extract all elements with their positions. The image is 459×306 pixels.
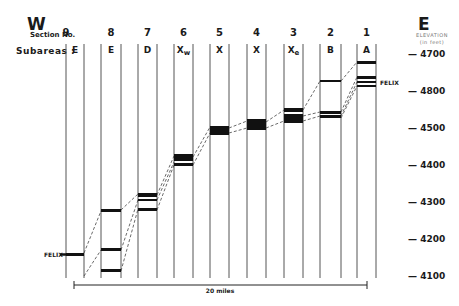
coal-bed-bar [357, 81, 376, 83]
coal-bed-bar [320, 80, 341, 82]
coal-bed-bar [138, 193, 157, 197]
coal-bed-bar [284, 114, 303, 123]
correlation-line [121, 209, 138, 271]
correlation-line [157, 156, 174, 195]
correlation-line [121, 194, 138, 210]
correlation-line [229, 121, 247, 128]
correlation-line [341, 86, 357, 118]
coal-bed-bar [101, 209, 121, 212]
correlation-line [193, 127, 210, 157]
coal-bed-bar [101, 248, 121, 251]
coal-bed-bar [101, 269, 121, 272]
scale-bar-label: 20 miles [206, 287, 234, 294]
coal-bed-bar [357, 76, 376, 79]
correlation-line [303, 112, 320, 116]
coal-bed-bar [138, 199, 157, 201]
coal-bed-bar [284, 108, 303, 112]
coal-bed-bar [210, 126, 229, 135]
coal-bed-bar [320, 115, 341, 118]
correlation-line [121, 200, 138, 250]
correlation-line [303, 81, 320, 110]
correlation-line [157, 165, 174, 210]
coal-bed-bar [357, 61, 376, 64]
coal-bed-bar [357, 85, 376, 87]
correlation-line [341, 62, 357, 81]
coal-bed-bar [138, 208, 157, 211]
correlation-line [84, 250, 101, 276]
correlation-line [341, 77, 357, 112]
correlation-line [303, 116, 320, 121]
coal-bed-bar [247, 119, 266, 130]
correlation-diagram [0, 0, 459, 306]
coal-bed-bar [174, 154, 193, 161]
correlation-line [229, 128, 247, 133]
correlation-line [266, 121, 284, 128]
correlation-line [193, 133, 210, 165]
correlation-line [157, 162, 174, 200]
correlation-line [84, 211, 101, 253]
coal-bed-bar [66, 253, 84, 256]
coal-bed-bar [320, 111, 341, 114]
correlation-line [266, 110, 284, 122]
coal-bed-bar [174, 163, 193, 166]
correlation-line [341, 82, 357, 116]
